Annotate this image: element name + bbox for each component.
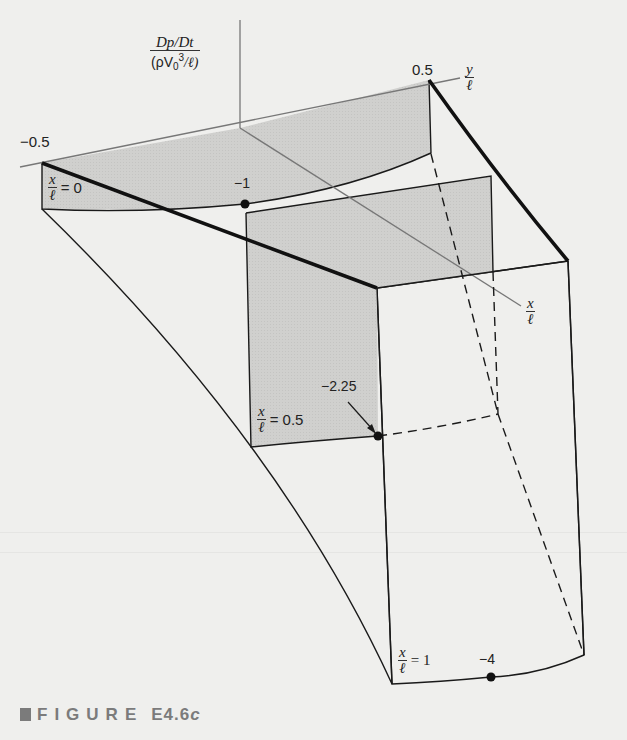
panel-label-x1: xℓ= 1 xyxy=(398,645,430,676)
caption-square-icon xyxy=(20,708,31,721)
pressure-derivative-surface-diagram xyxy=(0,0,627,740)
panel-label-x0: xℓ= 0 xyxy=(48,172,82,203)
bleed-through-line xyxy=(0,552,627,553)
y-tick-minus-half: −0.5 xyxy=(20,133,50,150)
vertical-axis-label: Dp/Dt (ρV03/ℓ) xyxy=(150,35,200,72)
min-value-x1: −4 xyxy=(479,651,495,667)
min-value-x0.5: −2.25 xyxy=(321,378,356,394)
min-point-x0 xyxy=(241,200,250,209)
panel-x-1 xyxy=(377,261,584,684)
x-axis-label: x ℓ xyxy=(526,296,535,327)
y-tick-plus-half: 0.5 xyxy=(412,61,433,78)
panel-label-x0.5: xℓ= 0.5 xyxy=(257,404,303,435)
bleed-through-line xyxy=(0,532,627,533)
panel-x-0 xyxy=(42,80,431,211)
y-axis-label: y ℓ xyxy=(465,62,474,93)
figure-caption: FIGUREE4.6c xyxy=(20,705,201,725)
min-point-x1 xyxy=(487,673,496,682)
min-value-x0: −1 xyxy=(234,175,250,191)
